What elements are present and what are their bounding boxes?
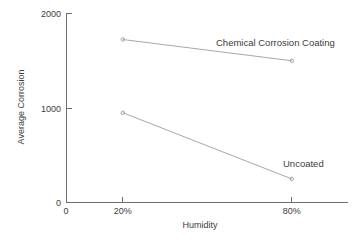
x-axis-title: Humidity	[182, 220, 218, 230]
chart-canvas: 2000 1000 0 0 20% 80% Humidity Average C…	[0, 0, 364, 241]
series-label-coated: Chemical Corrosion Coating	[216, 37, 335, 48]
x-tick-label-20pct: 20%	[114, 206, 132, 216]
series-line-uncoated	[123, 113, 292, 179]
corrosion-line-chart: 2000 1000 0 0 20% 80% Humidity Average C…	[0, 0, 364, 241]
y-tick-label-0: 0	[56, 198, 61, 208]
x-tick-label-origin: 0	[63, 206, 68, 216]
y-tick-label-1000: 1000	[41, 104, 61, 114]
series-label-uncoated: Uncoated	[283, 158, 324, 169]
series-uncoated	[121, 111, 293, 181]
y-tick-label-2000: 2000	[41, 9, 61, 19]
y-axis-title: Average Corrosion	[16, 70, 26, 145]
x-tick-label-80pct: 80%	[283, 206, 301, 216]
